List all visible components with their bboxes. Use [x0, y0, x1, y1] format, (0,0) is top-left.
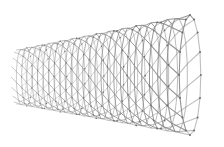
carbon-nanotube-illustration — [0, 0, 224, 147]
lattice — [11, 14, 202, 136]
